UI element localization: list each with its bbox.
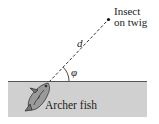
line-of-sight-dashed — [49, 20, 108, 82]
distance-label: d — [77, 38, 83, 48]
insect-dot — [107, 18, 110, 21]
target-label-line2: on twig — [114, 17, 147, 27]
angle-arc — [63, 67, 69, 81]
angle-label: φ — [71, 67, 77, 77]
fish-label: Archer fish — [45, 100, 97, 110]
target-label-line1: Insect — [114, 6, 140, 16]
